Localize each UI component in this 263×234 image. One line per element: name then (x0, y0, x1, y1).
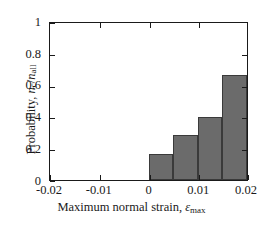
y-axis-slash: / (24, 80, 38, 83)
y-tick-mark (50, 181, 55, 182)
y-tick-mark-right (242, 87, 247, 88)
bar-bin-1 (149, 154, 174, 180)
y-axis-title-text: Probability, (24, 93, 38, 154)
y-tick-mark (50, 55, 55, 56)
x-tick-mark (248, 175, 249, 180)
y-tick-mark (50, 150, 55, 151)
bar-bin-4 (222, 75, 247, 180)
bar-bin-2 (173, 135, 198, 180)
x-tick-mark (199, 175, 200, 180)
x-tick-label: 0 (145, 184, 151, 197)
x-axis-title: Maximum normal strain, εmax (0, 200, 263, 217)
x-tick-label: 0.02 (235, 184, 257, 197)
bar-bin-3 (198, 117, 223, 180)
y-axis-denominator-subscript: all (28, 65, 38, 74)
y-tick-mark (50, 87, 55, 88)
x-tick-mark-top (199, 23, 200, 28)
plot-area (49, 22, 248, 181)
x-tick-mark-top (100, 23, 101, 28)
y-tick-mark-right (242, 55, 247, 56)
y-axis-title: Probability, nc/nall (24, 29, 41, 189)
y-axis-numerator-subscript: c (28, 83, 38, 87)
y-tick-mark-right (242, 150, 247, 151)
x-tick-mark-top (150, 23, 151, 28)
y-tick-mark (50, 23, 55, 24)
y-axis-denominator: n (24, 74, 38, 80)
chart-figure: 1 0.8 0.6 0.4 0.2 0 (0, 0, 263, 234)
bars-layer (50, 23, 247, 180)
y-tick-mark (50, 118, 55, 119)
x-axis-symbol-subscript: max (190, 205, 206, 215)
y-tick-label: 1 (35, 16, 41, 29)
x-axis-title-text: Maximum normal strain, (57, 200, 185, 214)
x-tick-mark (50, 175, 51, 180)
y-axis-numerator: n (24, 87, 38, 93)
x-tick-mark (100, 175, 101, 180)
x-tick-label: -0.01 (86, 184, 112, 197)
x-tick-mark (150, 175, 151, 180)
x-tick-label: 0.01 (187, 184, 209, 197)
y-tick-mark-right (242, 118, 247, 119)
